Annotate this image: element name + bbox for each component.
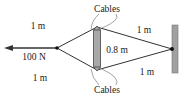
force-label: 100 N [22,52,46,62]
left-node [55,46,59,50]
strut-length-label: 0.8 m [106,45,128,55]
right-node [170,47,174,51]
cable-top-left [57,27,97,48]
arrowhead-icon [4,45,13,51]
cables-top-label: Cables [94,4,120,14]
cables-bottom-leader-left [91,69,99,85]
length-label-bottom-left: 1 m [33,73,48,83]
cables-bottom-label: Cables [94,85,120,95]
cables-bottom-leader-right [102,69,117,85]
strut [94,29,101,68]
cables-top-leader-right [102,14,117,28]
length-label-bottom-right: 1 m [140,67,155,77]
cable-bottom-left [57,48,97,70]
length-label-top-left: 1 m [31,21,46,31]
length-label-top-right: 1 m [137,25,152,35]
truss-diagram: Cables Cables 1 m 1 m 1 m 1 m 0.8 m 100 … [0,0,184,97]
